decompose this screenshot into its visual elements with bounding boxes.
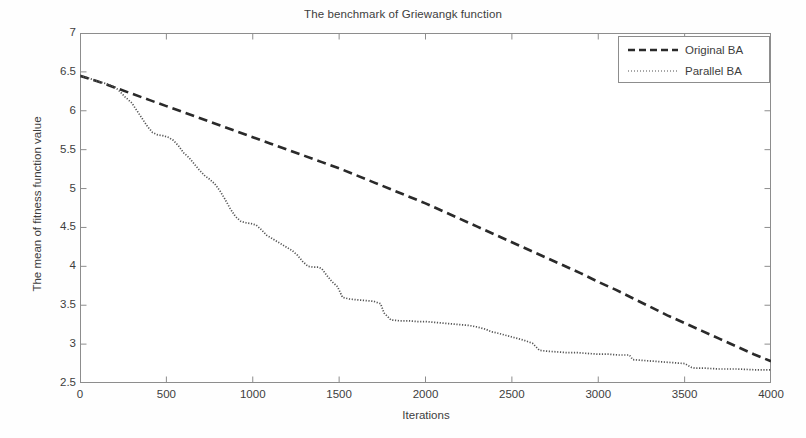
y-tick-label: 3.5	[36, 299, 76, 311]
legend-label-original-ba: Original BA	[685, 44, 743, 56]
y-axis-tick-labels: 2.533.544.555.566.57	[32, 33, 76, 383]
plot-area	[80, 33, 771, 383]
x-axis-tick-labels: 05001000150020002500300035004000	[80, 389, 771, 405]
legend-sample-dashed-line	[627, 44, 679, 56]
x-axis-label: Iterations	[80, 409, 772, 421]
chart-figure: The benchmark of Griewangk function The …	[0, 0, 806, 438]
x-tick-label: 2000	[396, 389, 456, 401]
legend-sample-dotted-line	[627, 65, 679, 77]
legend-item-original-ba[interactable]: Original BA	[619, 39, 771, 60]
chart-title: The benchmark of Griewangk function	[0, 8, 806, 20]
y-tick-label: 5.5	[36, 144, 76, 156]
y-tick-label: 3	[36, 338, 76, 350]
plot-canvas	[80, 33, 771, 383]
x-tick-label: 0	[50, 389, 110, 401]
y-tick-label: 5	[36, 183, 76, 195]
axes-frame	[81, 34, 771, 383]
chart-legend: Original BA Parallel BA	[618, 36, 770, 83]
x-tick-label: 4000	[741, 389, 801, 401]
legend-label-parallel-ba: Parallel BA	[685, 65, 742, 77]
legend-item-parallel-ba[interactable]: Parallel BA	[619, 60, 771, 81]
x-tick-label: 1000	[223, 389, 283, 401]
y-tick-label: 4	[36, 260, 76, 272]
x-tick-label: 1500	[309, 389, 369, 401]
x-tick-label: 3000	[568, 389, 628, 401]
y-tick-label: 6	[36, 105, 76, 117]
y-tick-label: 4.5	[36, 221, 76, 233]
y-tick-label: 2.5	[36, 377, 76, 389]
x-tick-label: 500	[136, 389, 196, 401]
x-tick-label: 2500	[482, 389, 542, 401]
y-tick-label: 7	[36, 27, 76, 39]
y-tick-label: 6.5	[36, 66, 76, 78]
x-tick-label: 3500	[655, 389, 715, 401]
